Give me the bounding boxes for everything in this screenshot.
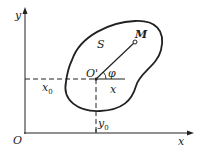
diagram-canvas — [0, 0, 202, 157]
angle-arc — [103, 72, 106, 79]
x0-subscript: 0 — [48, 88, 52, 96]
x-axis — [24, 131, 194, 136]
y0-label: y0 — [98, 118, 109, 132]
y0-subscript: 0 — [104, 124, 108, 132]
x-axis-label: x — [178, 136, 184, 147]
x0-label: x0 — [42, 82, 53, 96]
x-axis-arrow-icon — [187, 131, 194, 136]
origin-label: O — [13, 135, 22, 146]
local-x-label: x — [110, 84, 116, 95]
body-label: S — [97, 39, 105, 50]
y-axis-arrow-icon — [23, 7, 28, 14]
point-m-label: M — [135, 29, 147, 40]
rigid-body-outline — [65, 21, 162, 111]
angle-label: φ — [108, 68, 116, 79]
y-axis-label: y — [15, 10, 21, 21]
y-axis — [23, 7, 28, 134]
point-o-prime-label: O' — [86, 68, 98, 79]
